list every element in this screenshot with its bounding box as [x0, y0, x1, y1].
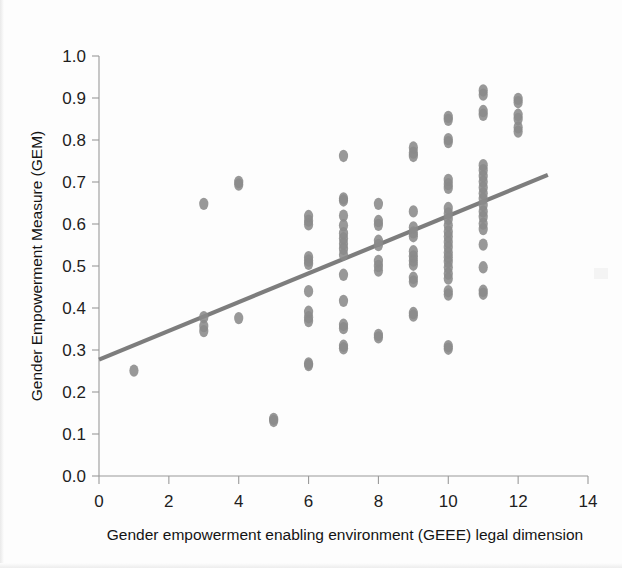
- data-point: [234, 312, 243, 324]
- y-tick-label: 0.5: [62, 257, 86, 276]
- data-point: [339, 192, 348, 204]
- data-point: [304, 357, 313, 369]
- data-point: [444, 174, 453, 186]
- data-point: [444, 111, 453, 123]
- y-tick-label: 0.2: [62, 383, 86, 402]
- data-point: [374, 255, 383, 267]
- data-point: [479, 238, 488, 250]
- data-point: [479, 159, 488, 171]
- data-point: [304, 251, 313, 263]
- data-point: [479, 105, 488, 117]
- y-axis-title: Gender Empowerment Measure (GEM): [28, 131, 45, 401]
- data-point: [339, 209, 348, 221]
- y-tick-group: 0.00.10.20.30.40.50.60.70.80.91.0: [62, 47, 99, 486]
- x-tick-label: 8: [374, 492, 383, 511]
- data-point: [444, 340, 453, 352]
- data-point: [444, 285, 453, 297]
- y-tick-label: 0.0: [62, 467, 86, 486]
- data-point: [304, 210, 313, 222]
- data-point: [374, 215, 383, 227]
- x-tick-label: 2: [164, 492, 173, 511]
- x-axis-title: Gender empowerment enabling environment …: [107, 526, 583, 543]
- x-tick-label: 12: [509, 492, 528, 511]
- data-point: [339, 269, 348, 281]
- data-point: [409, 141, 418, 153]
- data-point: [514, 109, 523, 121]
- x-tick-label: 14: [579, 492, 598, 511]
- data-point: [339, 319, 348, 331]
- data-point: [374, 329, 383, 341]
- data-point: [304, 285, 313, 297]
- data-point: [479, 261, 488, 273]
- data-point: [409, 205, 418, 217]
- data-point: [129, 364, 138, 376]
- data-point: [409, 245, 418, 257]
- x-tick-label: 4: [234, 492, 243, 511]
- data-point: [409, 272, 418, 284]
- y-tick-label: 0.8: [62, 131, 86, 150]
- y-tick-label: 0.7: [62, 173, 86, 192]
- data-point: [409, 221, 418, 233]
- figure-root: 0.00.10.20.30.40.50.60.70.80.91.0 024681…: [0, 0, 622, 568]
- data-points-group: [129, 84, 522, 427]
- y-tick-label: 0.3: [62, 341, 86, 360]
- y-tick-label: 0.6: [62, 215, 86, 234]
- data-point: [339, 295, 348, 307]
- y-tick-label: 0.4: [62, 299, 86, 318]
- data-point: [339, 340, 348, 352]
- data-point: [374, 198, 383, 210]
- data-point: [304, 306, 313, 318]
- data-point: [339, 150, 348, 162]
- data-point: [234, 176, 243, 188]
- data-point: [479, 285, 488, 297]
- x-tick-group: 02468101214: [94, 476, 597, 511]
- y-tick-label: 0.9: [62, 89, 86, 108]
- x-tick-label: 6: [304, 492, 313, 511]
- data-point: [374, 235, 383, 247]
- data-point: [444, 202, 453, 214]
- data-point: [479, 84, 488, 96]
- x-tick-label: 10: [439, 492, 458, 511]
- data-point: [409, 307, 418, 319]
- x-tick-label: 0: [94, 492, 103, 511]
- data-point: [199, 198, 208, 210]
- y-tick-label: 1.0: [62, 47, 86, 66]
- data-point: [199, 311, 208, 323]
- y-tick-label: 0.1: [62, 425, 86, 444]
- scatter-plot: 0.00.10.20.30.40.50.60.70.80.91.0 024681…: [0, 0, 622, 568]
- data-point: [514, 93, 523, 105]
- data-point: [269, 413, 278, 425]
- data-point: [444, 133, 453, 145]
